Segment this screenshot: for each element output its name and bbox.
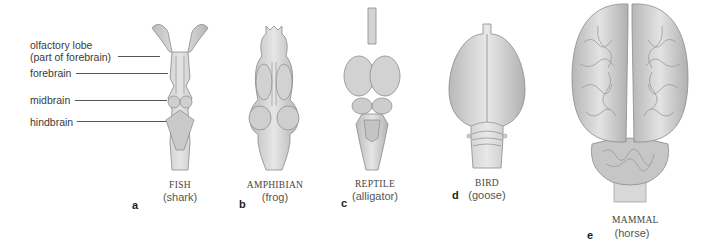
label-forebrain: forebrain bbox=[30, 67, 71, 79]
mammal-brain-illustration bbox=[568, 2, 692, 202]
panel-species-b: (frog) bbox=[255, 191, 295, 203]
olfactory-label-line2: (part of forebrain) bbox=[30, 51, 111, 63]
panel-letter-e: e bbox=[587, 229, 593, 241]
panel-species-c: (alligator) bbox=[349, 190, 401, 202]
fish-brain-illustration bbox=[150, 22, 210, 172]
panel-class-e: MAMMAL bbox=[612, 215, 652, 225]
olfactory-label-line1: olfactory lobe bbox=[30, 39, 111, 51]
panel-class-c: REPTILE bbox=[350, 179, 400, 189]
panel-class-b: AMPHIBIAN bbox=[240, 180, 310, 190]
panel-class-d: BIRD bbox=[470, 178, 504, 188]
panel-species-d: (goose) bbox=[467, 189, 507, 201]
panel-species-a: (shark) bbox=[155, 191, 205, 203]
panel-letter-b: b bbox=[239, 198, 246, 210]
label-hindbrain: hindbrain bbox=[30, 116, 73, 128]
panel-letter-d: d bbox=[452, 189, 459, 201]
bird-brain-illustration bbox=[445, 20, 529, 170]
panel-species-e: (horse) bbox=[610, 227, 654, 239]
reptile-brain-illustration bbox=[344, 4, 400, 172]
label-midbrain: midbrain bbox=[30, 94, 70, 106]
amphibian-brain-illustration bbox=[246, 22, 302, 172]
panel-class-a: FISH bbox=[160, 180, 200, 190]
label-olfactory-lobe: olfactory lobe (part of forebrain) bbox=[30, 39, 111, 63]
panel-letter-a: a bbox=[132, 199, 138, 211]
panel-letter-c: c bbox=[341, 197, 347, 209]
